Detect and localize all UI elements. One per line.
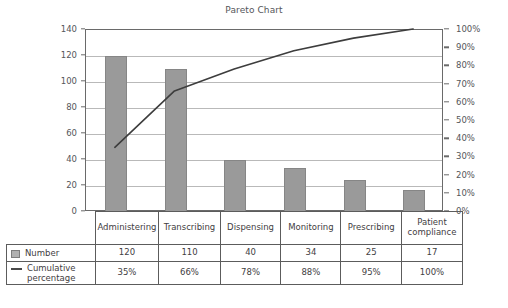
y2-axis-tick-label: 60% [456,97,500,107]
y2-axis-tick-mark [444,156,449,157]
y2-axis-tick-mark [444,28,449,29]
y-axis-tick-label: 100 [33,76,77,86]
table-row: Cumulative percentage 35%66%78%88%95%100… [7,262,463,285]
data-table: AdministeringTranscribingDispensingMonit… [6,211,463,285]
table-category-cell: Administering [95,212,158,245]
table-value-cell: 100% [402,262,463,285]
table-value-cell: 120 [95,245,158,262]
table-value-cell: 88% [281,262,341,285]
y2-axis-tick-label: 40% [456,133,500,143]
table-category-cell: Dispensing [220,212,281,245]
y-axis-tick-label: 40 [33,154,77,164]
table-value-cell: 66% [159,262,221,285]
y2-axis-tick-label: 90% [456,42,500,52]
y2-axis-tick-mark [444,46,449,47]
table-category-cell: Prescribing [341,212,402,245]
y2-axis-tick-label: 30% [456,151,500,161]
table-value-cell: 17 [402,245,463,262]
table-row: Number 12011040342517 [7,245,463,262]
y-axis-tick-label: 140 [33,24,77,34]
cumulative-percentage-line [85,29,443,211]
table-category-cell: Transcribing [159,212,221,245]
y2-axis-tick-label: 50% [456,115,500,125]
legend-cumulative-percentage: Cumulative percentage [7,262,96,285]
y2-axis-tick-mark [444,65,449,66]
legend-label: Cumulative percentage [27,263,94,283]
table-value-cell: 110 [159,245,221,262]
y2-axis-tick-mark [444,174,449,175]
y2-axis-tick-mark [444,119,449,120]
line-swatch-icon [11,268,22,270]
y-axis-tick-label: 60 [33,128,77,138]
y2-axis-tick-label: 100% [456,24,500,34]
table-value-cell: 78% [220,262,281,285]
square-swatch-icon [11,250,20,258]
y2-axis-tick-mark [444,192,449,193]
table-category-cell: Monitoring [281,212,341,245]
y-axis-tick-label: 80 [33,102,77,112]
y2-axis-tick-label: 20% [456,170,500,180]
table-value-cell: 25 [341,245,402,262]
y2-axis-tick-mark [444,101,449,102]
table-corner-cell [7,212,96,245]
legend-number: Number [7,245,96,262]
table-category-cell: Patient compliance [402,212,463,245]
chart-title: Pareto Chart [0,5,508,15]
pareto-chart-figure: Pareto Chart Number of errors 0204060801… [0,0,508,308]
table-value-cell: 95% [341,262,402,285]
y2-axis-tick-label: 10% [456,188,500,198]
y2-axis-tick-label: 80% [456,60,500,70]
legend-label: Number [25,248,59,258]
table-value-cell: 34 [281,245,341,262]
y2-axis-tick-mark [444,83,449,84]
y2-axis-tick-mark [444,137,449,138]
table-value-cell: 40 [220,245,281,262]
y-axis-tick-label: 20 [33,180,77,190]
y-axis-tick-label: 120 [33,50,77,60]
table-value-cell: 35% [95,262,158,285]
table-row-categories: AdministeringTranscribingDispensingMonit… [7,212,463,245]
y2-axis-tick-label: 70% [456,79,500,89]
